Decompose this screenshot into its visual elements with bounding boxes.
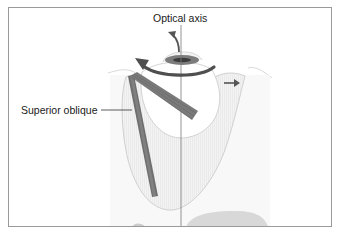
pupil — [173, 58, 191, 62]
superior-oblique-label: Superior oblique — [21, 105, 97, 116]
orbit-diagram — [0, 0, 347, 239]
optical-axis-label: Optical axis — [153, 13, 207, 24]
